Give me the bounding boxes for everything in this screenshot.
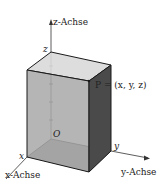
origin-label: O [53, 129, 61, 139]
y-tick-label: y [113, 141, 120, 151]
y-axis-label: y-Achse [120, 167, 156, 177]
point-p-label: P = (x, y, z) [95, 80, 147, 90]
diagram-svg: z-Achse z P = (x, y, z) O y x x-Achse y-… [0, 0, 164, 193]
coordinate-box-diagram: z-Achse z P = (x, y, z) O y x x-Achse y-… [0, 0, 164, 193]
x-axis-label: x-Achse [5, 170, 40, 180]
y-axis [111, 151, 148, 158]
point-p-marker [88, 80, 90, 82]
y-axis-arrow-icon [144, 156, 150, 161]
x-tick-label: x [19, 151, 24, 161]
z-tick-label: z [42, 44, 48, 54]
front-face [27, 70, 89, 172]
z-axis-label: z-Achse [53, 17, 88, 27]
